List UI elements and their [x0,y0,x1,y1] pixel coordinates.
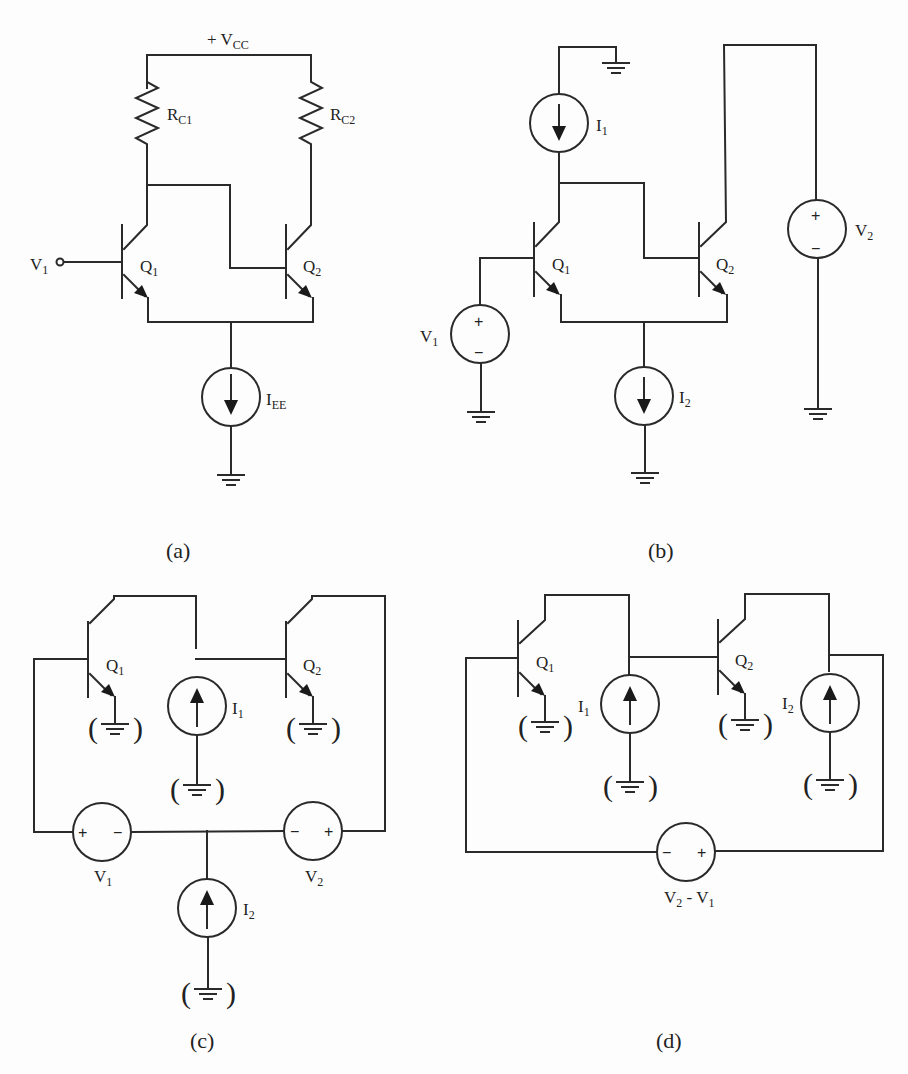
svg-text:(: ( [88,711,98,745]
voltage-source-v1: + − V1 [73,803,131,889]
svg-text:): ) [763,707,773,741]
svg-text:(: ( [603,769,613,803]
svg-text:(: ( [718,707,728,741]
svg-text:): ) [331,711,341,745]
q1-label: Q1 [140,257,158,279]
vcc-label: + VCC [207,30,249,52]
svg-text:+: + [811,207,820,224]
q1-label: Q1 [106,656,124,678]
ground-icon [532,722,558,732]
q1-label: Q1 [552,255,570,277]
caption-b: (b) [648,538,674,563]
transistor-q1: Q1 [60,225,158,298]
v1-label: V1 [94,867,112,889]
i1-label: I1 [578,697,590,719]
q2-label: Q2 [303,257,321,279]
caption-c: (c) [190,1028,214,1053]
q2-label: Q2 [303,656,321,678]
ground-icon [300,724,326,734]
differential-pair-circuit-figure: + VCC RC1 RC2 Q1 V1 [0,0,908,1074]
caption-a: (a) [166,538,190,563]
svg-text:+: + [78,824,87,841]
svg-text:(: ( [286,711,296,745]
svg-text:−: − [474,344,483,361]
svg-text:): ) [215,772,225,806]
ground-icon [632,473,658,483]
svg-text:+: + [324,823,333,840]
ground-icon [218,475,244,485]
current-source-i1: I1 [168,677,244,735]
panel-b: I1 Q1 Q2 + − V1 [420,45,873,563]
current-source-i2: I2 [782,674,859,732]
q2-label: Q2 [735,651,753,673]
transistor-q2: Q2 [286,225,321,298]
q2-label: Q2 [716,255,734,277]
svg-text:): ) [563,709,573,743]
ground-icon [102,724,128,734]
voltage-source-v1: + − V1 [420,305,509,363]
svg-text:−: − [662,844,671,861]
ground-icon [184,785,210,795]
voltage-source-v2-minus-v1: − + V2 - V1 [657,823,715,910]
svg-text:(: ( [518,709,528,743]
svg-text:+: + [697,844,706,861]
ground-icon [817,780,843,790]
v2-label: V2 [305,867,323,889]
q1-label: Q1 [536,653,554,675]
voltage-source-v2: − + V2 [284,802,342,889]
rc2-label: RC2 [330,105,355,127]
svg-text:(: ( [803,767,813,801]
panel-c: Q1 ( ) I1 ( ) Q2 ( ) [34,596,385,1053]
current-source-i1: I1 [578,675,659,733]
ground-icon [195,989,221,999]
i1-label: I1 [232,699,244,721]
rc1-label: RC1 [167,105,192,127]
svg-text:+: + [474,313,483,330]
v1-input-label: V1 [30,255,48,277]
svg-text:(: ( [181,976,191,1010]
i2-label: I2 [782,694,794,716]
voltage-source-v2: + − V2 [788,200,873,258]
current-source-i1: I1 [530,94,608,152]
svg-text:): ) [848,767,858,801]
ground-icon [805,409,831,419]
svg-text:): ) [226,976,236,1010]
iee-label: IEE [266,390,286,412]
v1-label: V1 [420,327,438,349]
svg-text:(: ( [170,772,180,806]
i1-label: I1 [596,116,608,138]
svg-text:−: − [811,240,820,257]
v2-minus-v1-label: V2 - V1 [664,888,714,910]
current-source-i2: I2 [178,879,255,937]
transistor-q2: Q2 ( ) [286,596,385,831]
transistor-q1: Q1 [480,223,570,305]
svg-text:−: − [113,824,122,841]
current-source-iee: IEE [202,368,286,426]
transistor-q1: Q1 ( ) [34,622,143,832]
current-source-i2: I2 [615,367,691,425]
resistor-rc2: RC2 [300,80,355,152]
svg-text:): ) [648,769,658,803]
transistor-q2: Q2 [699,45,816,296]
panel-a: + VCC RC1 RC2 Q1 V1 [30,30,355,563]
ground-icon [732,720,758,730]
svg-text:): ) [133,711,143,745]
ground-icon [617,782,643,792]
caption-d: (d) [656,1028,682,1053]
i2-label: I2 [679,388,691,410]
panel-d: Q1 ( ) I1 ( ) Q2 ( ) [466,594,883,1053]
ground-icon [603,63,629,73]
v2-label: V2 [855,221,873,243]
i2-label: I2 [243,900,255,922]
ground-icon [468,412,494,422]
svg-text:−: − [290,823,299,840]
resistor-rc1: RC1 [136,80,192,152]
input-terminal-v1 [57,259,64,266]
